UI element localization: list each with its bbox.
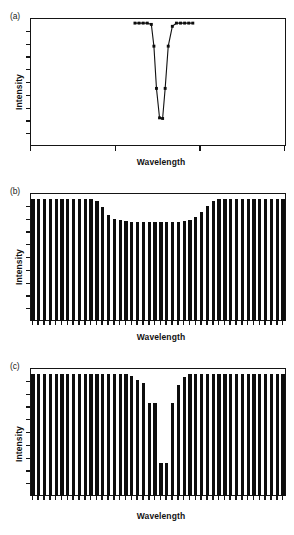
bar [229,374,232,496]
x-tick [218,496,220,500]
x-tick [113,496,115,500]
x-tick [241,496,243,500]
data-point-marker [175,22,178,25]
bar [241,199,244,321]
bar [235,374,238,496]
bar [113,219,116,321]
bar [258,374,261,496]
x-tick [125,321,127,325]
x-tick [101,321,103,325]
x-tick [55,321,57,325]
panel-b-bars [30,193,286,321]
bar [264,374,267,496]
bar [130,376,133,496]
data-point-marker [161,117,164,120]
panel-c-plot-area [30,368,286,496]
x-tick [189,496,191,500]
data-point-marker [187,22,190,25]
bar [124,221,127,321]
x-tick [154,321,156,325]
data-point-marker [158,116,161,119]
data-point-marker [164,87,167,90]
x-tick [195,496,197,500]
x-tick [247,496,249,500]
bar [235,199,238,321]
x-tick [259,496,261,500]
x-tick [67,496,69,500]
panel-a-label: (a) [10,12,20,21]
data-point-marker [152,45,155,48]
x-tick [113,321,115,325]
bar [37,374,40,496]
bar [130,222,133,321]
x-tick [212,321,214,325]
bar [136,380,139,496]
bar [49,199,52,321]
bar [101,374,104,496]
bar [136,222,139,321]
bar [270,199,273,321]
bar [188,374,191,496]
x-tick [32,496,34,500]
panel-b: (b) Intensity Wavelength [0,183,294,351]
bar [89,374,92,496]
bar [171,222,174,321]
bar [78,374,81,496]
x-tick [96,496,98,500]
x-tick [84,321,86,325]
bar [66,199,69,321]
bar [194,217,197,321]
bar [183,377,186,496]
bar [200,212,203,321]
x-tick [276,496,278,500]
bar [37,199,40,321]
x-tick [43,321,45,325]
x-tick [171,321,173,325]
x-tick [96,321,98,325]
panel-b-plot-area [30,193,286,321]
bar [119,374,122,496]
bar [183,221,186,321]
x-tick [195,321,197,325]
x-tick [136,496,138,500]
data-point-marker [179,22,182,25]
bar [247,199,250,321]
bar [107,215,110,321]
x-tick [200,321,202,325]
bar [177,385,180,496]
x-tick [177,496,179,500]
bar [177,222,180,321]
x-tick [224,321,226,325]
x-tick [183,496,185,500]
x-tick [229,321,231,325]
x-tick [224,496,226,500]
bar [142,222,145,321]
x-tick [78,496,80,500]
x-tick [284,146,285,151]
x-tick [90,321,92,325]
x-tick [49,321,51,325]
bar [153,403,156,496]
bar [194,374,197,496]
bar [89,199,92,321]
x-tick [154,496,156,500]
x-tick [125,496,127,500]
bar [159,463,162,496]
x-tick [241,321,243,325]
x-tick [90,496,92,500]
x-tick [165,496,167,500]
x-tick [115,146,116,151]
bar [252,199,255,321]
data-point-marker [191,22,194,25]
x-tick [107,496,109,500]
bar [43,199,46,321]
bar [159,222,162,321]
x-tick [206,321,208,325]
x-tick [61,321,63,325]
bar [212,374,215,496]
bar [107,374,110,496]
x-tick [276,321,278,325]
bar [119,220,122,321]
x-tick [189,321,191,325]
bar [281,199,284,321]
